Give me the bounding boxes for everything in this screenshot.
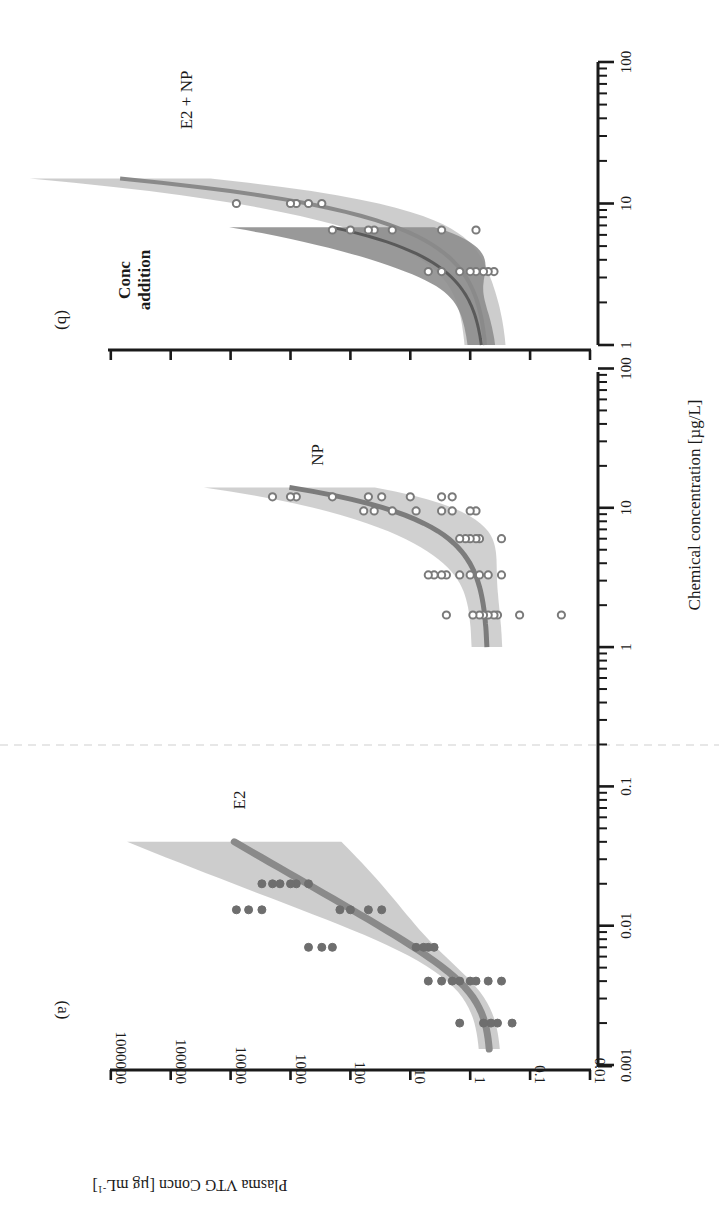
y-tick-label: 1000 xyxy=(293,1054,309,1084)
data-point xyxy=(346,906,354,914)
data-point xyxy=(233,200,240,207)
label-conc-addition: Conc addition xyxy=(115,249,154,310)
data-point xyxy=(498,571,505,578)
data-point xyxy=(287,880,295,888)
data-point xyxy=(305,880,313,888)
svg-text:10: 10 xyxy=(618,196,634,211)
y-tick-label: 0.01 xyxy=(592,1058,608,1084)
data-point xyxy=(508,1019,516,1027)
svg-text:100: 100 xyxy=(618,51,634,74)
panel-a-x-axis: 0.0010.010.1110100 xyxy=(598,357,634,1082)
data-point xyxy=(485,571,492,578)
y-tick-label: 10000 xyxy=(233,1047,249,1085)
svg-text:Plasma VTG Concn [µg mL-1]: Plasma VTG Concn [µg mL-1] xyxy=(92,1176,287,1195)
data-point xyxy=(456,977,464,985)
panel-b-y-axis xyxy=(108,350,591,360)
svg-text:(a): (a) xyxy=(54,1001,73,1020)
data-point xyxy=(305,200,312,207)
data-point xyxy=(329,493,336,500)
data-point xyxy=(456,1019,464,1027)
data-point xyxy=(456,535,463,542)
y-tick-label: 1000000 xyxy=(113,1032,129,1085)
data-point xyxy=(318,943,326,951)
data-point xyxy=(449,493,456,500)
data-point xyxy=(425,268,432,275)
svg-text:Chemical concentration [µg/L]: Chemical concentration [µg/L] xyxy=(685,400,704,611)
data-point xyxy=(318,200,325,207)
data-point xyxy=(287,493,294,500)
y-tick-label: 10 xyxy=(412,1069,428,1084)
data-point xyxy=(472,226,479,233)
data-point xyxy=(389,226,396,233)
data-point xyxy=(469,611,476,618)
x-axis-title: Chemical concentration [µg/L] xyxy=(685,400,704,611)
x-tick-label: 100 xyxy=(618,51,634,74)
data-point xyxy=(425,571,432,578)
data-point xyxy=(413,507,420,514)
x-tick-label: 0.01 xyxy=(618,913,634,939)
svg-text:0.1: 0.1 xyxy=(618,777,634,796)
x-tick-label: 10 xyxy=(618,196,634,211)
svg-text:1000: 1000 xyxy=(293,1054,309,1084)
data-point xyxy=(420,943,428,951)
svg-text:addition: addition xyxy=(135,249,154,310)
data-point xyxy=(258,906,266,914)
data-point xyxy=(484,977,492,985)
data-point xyxy=(258,880,266,888)
dose-response-chart: (a) (b) 10000001000001000010001001010.10… xyxy=(0,0,719,1207)
data-point xyxy=(378,493,385,500)
y-tick-label: 100 xyxy=(352,1062,368,1085)
data-point xyxy=(365,493,372,500)
x-tick-label: 100 xyxy=(618,357,634,380)
data-point xyxy=(389,507,396,514)
svg-text:10: 10 xyxy=(618,500,634,515)
panel-b-label: (b) xyxy=(54,310,73,330)
y-tick-label: 1 xyxy=(472,1077,488,1085)
data-point xyxy=(328,943,336,951)
svg-text:100000: 100000 xyxy=(173,1039,189,1084)
data-point xyxy=(329,226,336,233)
svg-text:10: 10 xyxy=(412,1069,428,1084)
data-point xyxy=(467,571,474,578)
panel-b-x-axis: 110100 xyxy=(598,51,634,349)
svg-text:1: 1 xyxy=(618,341,634,349)
svg-text:0.01: 0.01 xyxy=(592,1058,608,1084)
data-point xyxy=(467,268,474,275)
data-point xyxy=(466,977,474,985)
data-point xyxy=(438,571,445,578)
svg-text:1000000: 1000000 xyxy=(113,1032,129,1085)
svg-text:0.01: 0.01 xyxy=(618,913,634,939)
x-tick-label: 10 xyxy=(618,500,634,515)
data-point xyxy=(276,880,284,888)
fit-curves xyxy=(120,179,489,1050)
data-point xyxy=(438,977,446,985)
data-point xyxy=(336,906,344,914)
svg-text:E2: E2 xyxy=(230,791,249,810)
data-point xyxy=(360,507,367,514)
svg-text:0.001: 0.001 xyxy=(618,1048,634,1082)
data-point xyxy=(347,226,354,233)
svg-text:1: 1 xyxy=(472,1077,488,1085)
data-point xyxy=(516,611,523,618)
data-point xyxy=(287,200,294,207)
panel-a-label: (a) xyxy=(54,1001,73,1020)
data-point xyxy=(443,611,450,618)
data-point xyxy=(480,1019,488,1027)
data-point xyxy=(476,571,483,578)
data-point xyxy=(412,943,420,951)
data-point xyxy=(269,493,276,500)
y-tick-label: 100000 xyxy=(173,1039,189,1084)
x-tick-label: 0.1 xyxy=(618,777,634,796)
svg-text:NP: NP xyxy=(308,444,327,466)
data-point xyxy=(438,268,445,275)
data-point xyxy=(498,977,506,985)
data-point xyxy=(498,535,505,542)
data-point xyxy=(424,977,432,985)
svg-text:100: 100 xyxy=(618,357,634,380)
svg-text:100: 100 xyxy=(352,1062,368,1085)
data-point xyxy=(364,906,372,914)
data-point xyxy=(438,493,445,500)
svg-text:1: 1 xyxy=(618,643,634,651)
data-point xyxy=(232,906,240,914)
data-point xyxy=(378,906,386,914)
